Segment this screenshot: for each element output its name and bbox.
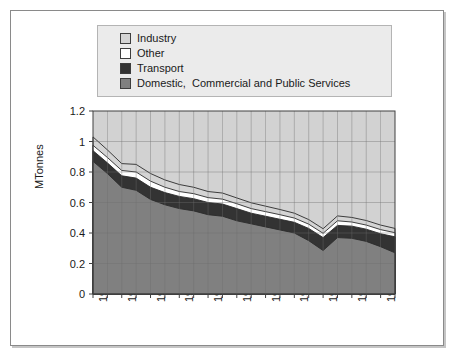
plot-area: MTonnes 00.20.40.60.811.2 19701972197419… <box>11 11 443 345</box>
chart-frame: Industry Other Transport Domestic, Comme… <box>10 10 444 346</box>
stacked-area-chart <box>11 11 443 345</box>
